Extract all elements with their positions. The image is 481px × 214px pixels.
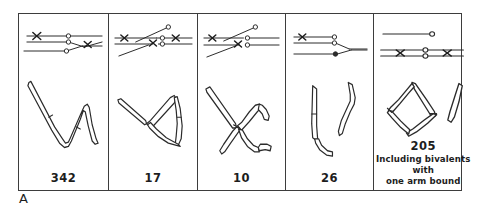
- chromosome-configuration-ring-rod: [374, 76, 472, 141]
- panel-count-26: 26: [321, 173, 338, 185]
- chromosome-configuration-zigzag: [19, 76, 108, 161]
- chromosome-configuration-cross: [198, 76, 285, 161]
- figure-frame: 342: [18, 13, 462, 191]
- figure-panel-letter: A: [19, 192, 28, 205]
- panel-2: 17: [109, 14, 198, 190]
- panel-3: 10: [198, 14, 286, 190]
- panel-5: 205 Including bivalents with one arm bou…: [374, 14, 472, 190]
- panel-row: 342: [19, 14, 461, 190]
- chiasma-schematic-26: [286, 14, 373, 76]
- chromosome-configuration-pair: [286, 76, 373, 161]
- panel-count-17: 17: [144, 173, 161, 185]
- caption-line-2: with: [376, 165, 470, 176]
- chromosome-configuration-triangle-tail: [109, 76, 197, 161]
- panel-caption-note: Including bivalents with one arm bound: [374, 154, 472, 190]
- panel-count-342: 342: [51, 173, 77, 185]
- panel-count-205: 205: [410, 141, 436, 153]
- panel-1: 342: [19, 14, 109, 190]
- figure-root: 342: [0, 0, 481, 214]
- chiasma-schematic-342: [19, 14, 108, 76]
- caption-line-1: Including bivalents: [376, 154, 470, 165]
- chiasma-schematic-205: [374, 14, 472, 76]
- panel-4: 26: [286, 14, 374, 190]
- panel-count-10: 10: [233, 173, 250, 185]
- chiasma-schematic-10: [198, 14, 285, 76]
- chiasma-schematic-17: [109, 14, 197, 76]
- caption-line-3: one arm bound: [376, 176, 470, 187]
